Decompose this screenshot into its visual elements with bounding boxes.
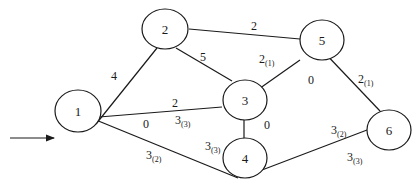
edge-4-6-weight: 3(2) [331,123,347,139]
svg-text:2: 2 [162,22,169,37]
network-diagram: 1 2 3 4 5 6 4 2 5 2(1) 0 2(1) 2 3(3) 0 0… [0,0,415,188]
edge-3-5-weight: 2(1) [259,52,275,68]
edge-2-5 [189,29,300,39]
edge-1-3-residual: 0 [143,117,149,131]
edge-2-3-weight: 5 [200,50,206,64]
edge-1-3 [99,107,222,117]
edge-1-3-weight: 2 [172,96,178,110]
edge-1-4-weight: 3(2) [146,148,162,164]
svg-text:5: 5 [319,33,326,48]
edge-5-6-weight: 2(1) [358,72,374,88]
edge-3-4-flow: 3(3) [205,139,221,155]
node-2: 2 [142,9,188,49]
edge-1-2-weight: 4 [111,69,117,83]
edge-4-6-flow: 3(3) [347,150,363,166]
svg-text:3: 3 [242,93,249,108]
node-1: 1 [55,90,101,132]
svg-text:1: 1 [75,104,82,119]
node-5: 5 [300,20,344,60]
svg-text:6: 6 [386,123,393,138]
node-6: 6 [367,110,411,150]
svg-text:4: 4 [242,151,249,166]
node-3: 3 [223,80,267,120]
edge-1-3-flow: 3(3) [175,113,191,129]
edge-3-5-flow: 0 [308,73,314,87]
node-4: 4 [223,138,267,178]
edge-3-4-weight: 0 [264,118,270,132]
edge-2-5-weight: 2 [251,19,257,33]
